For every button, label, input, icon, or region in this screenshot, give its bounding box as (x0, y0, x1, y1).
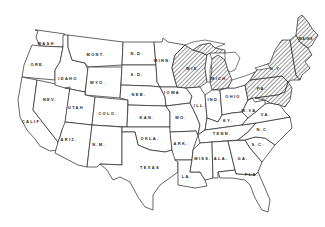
label-neb: NEB. (132, 92, 147, 97)
label-calif: CALIF. (22, 119, 42, 124)
label-idaho: IDAHO (58, 76, 77, 81)
label-fla: FLA. (245, 172, 259, 177)
label-ind: IND. (207, 97, 220, 102)
label-sc: S.C. (252, 142, 265, 147)
state-ind (205, 90, 222, 122)
label-ohio: OHIO (225, 94, 240, 99)
label-la: LA. (182, 174, 192, 179)
label-texas: TEXAS (140, 165, 160, 170)
label-wva: W.VA. (241, 108, 259, 113)
label-ga: GA. (237, 156, 248, 161)
label-colo: COLO. (98, 111, 117, 116)
label-mont: MONT. (87, 52, 106, 57)
label-nm: N.M. (92, 142, 106, 147)
label-wis: WIS. (186, 66, 200, 71)
label-ky: KY. (223, 118, 233, 123)
us-map: WASH ORE. CALIF. NEV. IDAHO MONT. WYO. U… (0, 0, 325, 227)
label-tenn: TENN. (213, 131, 232, 136)
label-pa: PA. (257, 86, 267, 91)
label-wyo: WYO. (90, 80, 106, 85)
label-sd: S.D. (131, 72, 144, 77)
label-va: VA. (261, 112, 271, 117)
label-minn: MINN. (154, 58, 172, 63)
label-wash: WASH (37, 41, 54, 46)
label-miss: MISS. (194, 156, 211, 161)
label-ala: ALA. (214, 156, 229, 161)
label-iowa: IOWA (164, 90, 180, 95)
label-utah: UTAH (68, 105, 84, 110)
label-ny: N.Y. (270, 66, 283, 71)
label-ariz: ARIZ. (61, 137, 78, 142)
label-nc: N.C. (256, 127, 269, 132)
label-mo: MO. (175, 115, 186, 120)
label-nd: N.D. (130, 51, 143, 56)
label-ark: ARK. (174, 141, 189, 146)
label-nev: NEV. (43, 97, 57, 102)
label-mich: MICH. (211, 76, 229, 81)
label-kan: KAN. (140, 115, 155, 120)
label-ore: ORE. (31, 62, 46, 67)
label-maine: MAINE (299, 37, 313, 41)
label-okla: OKLA. (141, 136, 160, 141)
label-ill: ILL. (194, 103, 206, 108)
